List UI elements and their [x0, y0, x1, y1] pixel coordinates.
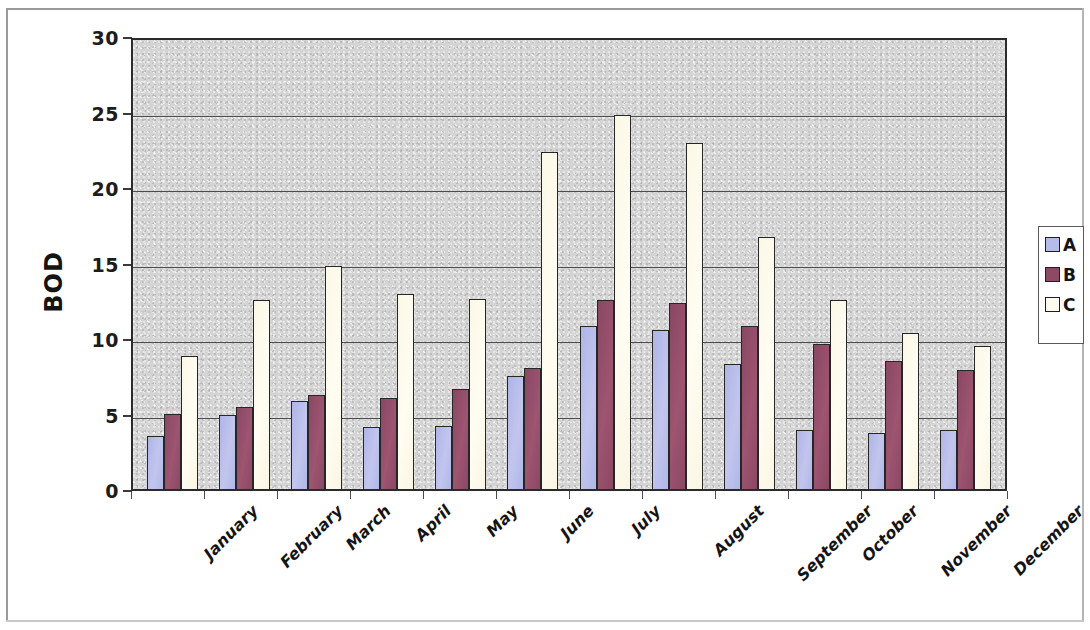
bar-b-august — [669, 303, 686, 489]
bar-a-december — [940, 430, 957, 489]
bar-group — [353, 40, 425, 489]
bar-a-april — [363, 427, 380, 489]
bar-a-september — [724, 364, 741, 489]
bar-b-july — [597, 300, 614, 489]
bar-b-september — [741, 326, 758, 489]
bar-c-april — [397, 294, 414, 489]
bar-c-february — [253, 300, 270, 489]
legend-swatch-icon — [1045, 297, 1060, 312]
bar-group — [713, 40, 785, 489]
bar-a-november — [868, 433, 885, 489]
y-axis-tick-label: 5 — [105, 405, 119, 427]
bar-b-april — [380, 398, 397, 489]
bar-b-december — [957, 370, 974, 489]
bar-group — [425, 40, 497, 489]
bar-group — [641, 40, 713, 489]
bar-group — [786, 40, 858, 489]
bar-a-august — [652, 330, 669, 489]
y-axis: 051015202530 — [82, 0, 132, 530]
bar-c-march — [325, 266, 342, 489]
bar-a-july — [580, 326, 597, 489]
x-axis-label-march: March — [342, 501, 395, 554]
bar-group — [858, 40, 930, 489]
bar-c-october — [830, 300, 847, 489]
legend-item-a: A — [1045, 236, 1083, 253]
bar-b-january — [164, 414, 181, 490]
x-axis-label-june: June — [556, 501, 597, 542]
bar-c-december — [974, 346, 991, 489]
x-axis-label-april: April — [411, 501, 455, 545]
bar-c-november — [902, 333, 919, 489]
y-axis-tick-label: 25 — [92, 103, 119, 125]
y-axis-tick-label: 0 — [105, 480, 119, 502]
chart-page: BOD 051015202530 JanuaryFebruaryMarchApr… — [0, 0, 1090, 630]
bar-c-august — [686, 143, 703, 489]
bar-b-november — [885, 361, 902, 489]
y-axis-tick-label: 15 — [92, 254, 119, 276]
legend-label: A — [1063, 235, 1076, 255]
bar-c-january — [181, 356, 198, 489]
bar-group — [136, 40, 208, 489]
page-frame-top-border — [6, 8, 1084, 10]
bar-b-october — [813, 344, 830, 489]
bar-b-march — [308, 395, 325, 489]
bar-a-february — [219, 415, 236, 489]
x-axis-label-february: February — [276, 501, 346, 571]
x-axis-label-july: July — [628, 501, 665, 538]
legend: ABC — [1038, 226, 1084, 344]
bar-b-june — [524, 368, 541, 489]
bar-b-may — [452, 389, 469, 489]
y-axis-tick-label: 20 — [92, 178, 119, 200]
bar-group — [280, 40, 352, 489]
legend-label: C — [1063, 295, 1075, 315]
legend-item-c: C — [1045, 296, 1083, 313]
page-frame-bottom-border — [6, 620, 1084, 622]
bar-a-january — [147, 436, 164, 489]
x-axis-label-january: January — [200, 501, 262, 563]
bar-c-july — [614, 115, 631, 489]
y-axis-title: BOD — [40, 222, 68, 342]
bar-group — [930, 40, 1002, 489]
bar-a-march — [291, 401, 308, 489]
bar-b-february — [236, 407, 253, 489]
bar-c-september — [758, 237, 775, 489]
x-axis-label-may: May — [482, 501, 521, 540]
bar-group — [569, 40, 641, 489]
bar-groups — [133, 40, 1005, 489]
bar-c-may — [469, 299, 486, 489]
legend-swatch-icon — [1045, 237, 1060, 252]
bar-c-june — [541, 152, 558, 489]
page-frame-left-border — [6, 8, 8, 622]
legend-item-b: B — [1045, 266, 1083, 283]
bar-group — [497, 40, 569, 489]
x-axis-label-august: August — [709, 501, 768, 560]
plot-area — [131, 38, 1007, 491]
y-axis-tick-label: 30 — [92, 27, 119, 49]
legend-label: B — [1063, 265, 1076, 285]
x-axis-label-december: December — [1010, 501, 1088, 579]
x-axis-labels: JanuaryFebruaryMarchAprilMayJuneJulyAugu… — [131, 497, 1007, 592]
bar-a-october — [796, 430, 813, 489]
bar-a-may — [435, 426, 452, 489]
y-axis-tick-label: 10 — [92, 329, 119, 351]
legend-swatch-icon — [1045, 267, 1060, 282]
x-axis-label-september: September — [793, 501, 877, 585]
bar-group — [208, 40, 280, 489]
x-axis-tick-mark — [1007, 491, 1008, 499]
x-axis-label-november: November — [937, 501, 1016, 580]
bar-a-june — [507, 376, 524, 489]
